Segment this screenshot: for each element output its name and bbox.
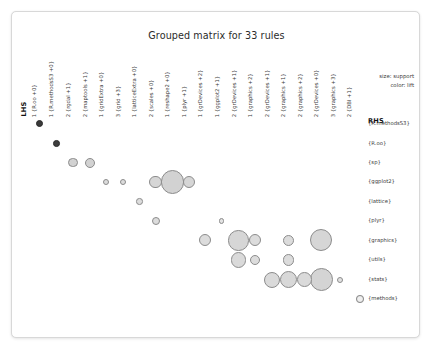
bubble-point	[356, 295, 364, 303]
lhs-axis-title-text: LHS	[21, 102, 28, 117]
lhs-column-label-6: 1 {latticeExtra +0}	[137, 116, 138, 117]
bubble-point	[231, 252, 246, 267]
legend-size-text: size: support	[379, 74, 414, 79]
rhs-row-label-5: {plyr}	[368, 218, 385, 223]
lhs-column-label-text: 2 {DBI +1}	[347, 86, 352, 117]
lhs-column-label-text: 1 {gridExtra +0}	[99, 71, 104, 117]
chart-card: Grouped matrix for 33 rules LHS 1 {R.oo …	[11, 11, 420, 338]
bubble-point	[250, 255, 260, 265]
lhs-column-label-text: 1 {R.methodsS3 +0}	[49, 61, 54, 117]
lhs-column-label-13: 1 {graphics +2}	[253, 116, 254, 117]
bubble-point	[249, 234, 261, 246]
bubble-point	[199, 234, 211, 246]
bubble-point	[152, 217, 160, 225]
legend-color-text: color: lift	[390, 83, 414, 88]
lhs-column-label-10: 1 {grDevices +2}	[203, 116, 204, 117]
lhs-column-label-8: 1 {reshape2 +0}	[170, 116, 171, 117]
lhs-column-label-0: 1 {R.oo +0}	[37, 116, 38, 117]
bubble-point	[149, 176, 162, 189]
lhs-column-label-text: 1 {grDevices +2}	[198, 69, 203, 117]
rhs-row-label-1: {R.oo}	[368, 141, 386, 146]
bubble-point	[136, 198, 143, 205]
bubble-point	[283, 235, 294, 246]
bubble-point	[219, 218, 224, 223]
rhs-row-label-0: {R.methodsS3}	[368, 121, 410, 126]
bubble-point	[280, 271, 297, 288]
lhs-column-label-text: 1 {plyr +1}	[182, 86, 187, 117]
lhs-column-label-text: 2 {graphics +1}	[281, 73, 286, 117]
lhs-column-label-18: 3 {graphics +3}	[336, 116, 337, 117]
bubble-point	[310, 268, 333, 291]
lhs-column-label-text: 1 {reshape2 +0}	[165, 71, 170, 117]
lhs-column-label-text: 1 {ggplot2 +1}	[215, 75, 220, 117]
rhs-row-label-4: {lattice}	[368, 199, 391, 204]
rhs-row-label-7: {utils}	[368, 257, 386, 262]
bubble-point	[120, 179, 127, 186]
bubble-point	[103, 179, 110, 186]
bubble-point	[283, 254, 294, 265]
lhs-column-label-text: 2 {scales +0}	[149, 79, 154, 117]
lhs-column-label-17: 2 {grDevices +0}	[319, 116, 320, 117]
lhs-column-label-14: 2 {grDevices +1}	[270, 116, 271, 117]
lhs-column-label-16: 2 {graphics +2}	[303, 116, 304, 117]
lhs-column-label-text: 2 {grDevices +1}	[264, 69, 269, 117]
lhs-column-label-2: 2 {rgdal +1}	[71, 116, 72, 117]
lhs-column-label-text: 2 {graphics +2}	[298, 73, 303, 117]
lhs-column-label-text: 1 {R.oo +0}	[32, 84, 37, 117]
bubble-point	[337, 277, 343, 283]
rhs-row-label-6: {graphics}	[368, 238, 397, 243]
rhs-row-label-9: {methods}	[368, 296, 398, 301]
bubble-point	[68, 158, 77, 167]
bubble-point	[228, 230, 248, 250]
rhs-row-label-3: {ggplot2}	[368, 179, 395, 184]
lhs-column-label-text: 3 {grid +3}	[116, 85, 121, 117]
bubble-point	[85, 158, 95, 168]
lhs-column-label-3: 2 {maptools +1}	[88, 116, 89, 117]
lhs-column-label-text: 1 {latticeExtra +0}	[132, 65, 137, 117]
grouped-matrix-plot: Grouped matrix for 33 rules LHS 1 {R.oo …	[12, 12, 420, 338]
lhs-column-label-text: 2 {grDevices +1}	[231, 69, 236, 117]
lhs-column-label-text: 2 {maptools +1}	[83, 71, 88, 117]
lhs-column-label-12: 2 {grDevices +1}	[237, 116, 238, 117]
bubble-point	[264, 272, 280, 288]
page-title: Grouped matrix for 33 rules	[12, 30, 420, 41]
bubble-point	[310, 229, 332, 251]
bubble-point	[36, 120, 43, 127]
lhs-column-label-11: 1 {ggplot2 +1}	[220, 116, 221, 117]
lhs-column-label-1: 1 {R.methodsS3 +0}	[54, 116, 55, 117]
rhs-row-label-8: {stats}	[368, 277, 388, 282]
lhs-column-label-text: 3 {graphics +3}	[331, 73, 336, 117]
lhs-column-label-text: 2 {grDevices +0}	[314, 69, 319, 117]
lhs-column-label-15: 2 {graphics +1}	[286, 116, 287, 117]
lhs-column-label-text: 1 {graphics +2}	[248, 73, 253, 117]
lhs-column-label-4: 1 {gridExtra +0}	[104, 116, 105, 117]
lhs-column-label-text: 2 {rgdal +1}	[66, 82, 71, 117]
lhs-column-label-9: 1 {plyr +1}	[187, 116, 188, 117]
lhs-column-label-7: 2 {scales +0}	[154, 116, 155, 117]
lhs-column-label-19: 2 {DBI +1}	[352, 116, 353, 117]
lhs-axis-title: LHS	[28, 116, 29, 117]
bubble-point	[183, 176, 196, 189]
rhs-row-label-2: {sp}	[368, 160, 381, 165]
bubble-point	[297, 272, 312, 287]
lhs-column-label-5: 3 {grid +3}	[121, 116, 122, 117]
bubble-point	[53, 140, 60, 147]
bubble-point	[161, 170, 184, 193]
